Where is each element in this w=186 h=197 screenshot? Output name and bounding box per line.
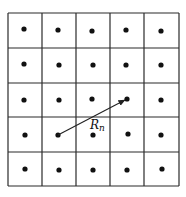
lattice-point [55,27,60,32]
lattice-point [90,167,95,172]
lattice-point [123,62,128,67]
lattice-point [90,62,95,67]
lattice-point [158,132,163,137]
lattice-point [158,97,163,102]
lattice-diagram: Rn [0,0,186,197]
lattice-point [22,132,27,137]
vector-label-rn: Rn [89,118,105,133]
lattice-point [158,28,163,33]
lattice-point [21,26,26,31]
lattice-point [56,62,61,67]
lattice-point [22,166,27,171]
lattice-point [125,131,130,136]
lattice-point [158,62,163,67]
lattice-point [123,27,128,32]
vector-label-subscript: n [99,123,105,133]
lattice-point [124,96,129,101]
lattice-point [159,166,164,171]
vector-label-main: R [89,118,99,132]
lattice-point [124,167,129,172]
lattice-point [21,97,26,102]
lattice-point [56,97,61,102]
lattice-point [56,167,61,172]
lattice-point [90,132,95,137]
lattice-point [21,61,26,66]
lattice-point [89,28,94,33]
lattice-point [89,96,94,101]
